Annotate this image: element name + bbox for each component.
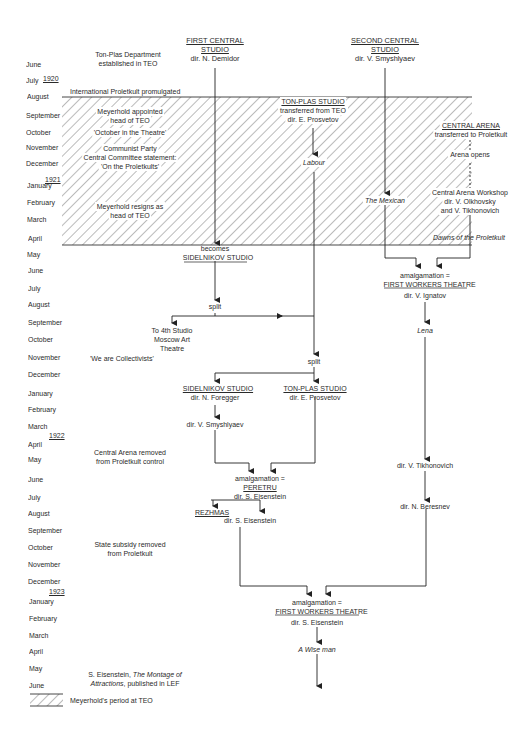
year-1920: 1920: [43, 74, 59, 83]
node-a-wise-man: A Wise man: [294, 645, 340, 654]
month-label: March: [29, 631, 48, 640]
month-label: January: [29, 597, 54, 606]
node-becomes: becomes: [187, 244, 242, 253]
node-dir-smyshlyaev: dir. V. Smyshlyaev: [183, 420, 247, 429]
node-first-workers-theatre-1: amalgamation = FIRST WORKERS THEATRE dir…: [384, 271, 467, 300]
month-label: July: [28, 284, 40, 293]
year-1923: 1923: [49, 587, 65, 596]
node-dawns-of-the-proletkult: Dawns of the Proletkult: [428, 233, 511, 242]
month-label: December: [26, 159, 58, 168]
event-state-subsidy: State subsidy removed from Proletkult: [84, 540, 176, 558]
event-we-are-collectivists: 'We are Collectivists': [90, 354, 154, 363]
month-label: February: [28, 405, 56, 414]
month-label: August: [28, 509, 50, 518]
month-label: October: [28, 543, 53, 552]
event-ton-plas-dept: Ton-Plas Department established in TEO: [82, 50, 174, 68]
year-1922: 1922: [49, 431, 65, 440]
month-label: June: [26, 60, 41, 69]
month-label: August: [28, 300, 50, 309]
node-sidelnikov-studio-1: SIDELNIKOV STUDIO: [183, 253, 247, 262]
month-label: July: [28, 493, 40, 502]
month-label: July: [26, 76, 38, 85]
node-central-arena-workshop: Central Arena Workshop dir. V. Olkhovsky…: [429, 188, 512, 215]
month-label: March: [27, 215, 46, 224]
node-arena-opens: Arena opens: [442, 150, 497, 159]
month-label: January: [27, 181, 52, 190]
month-label: August: [27, 92, 49, 101]
node-ton-plas-studio-1: TON-PLAS STUDIO transferred from TEO dir…: [272, 97, 355, 124]
month-label: February: [27, 198, 55, 207]
node-first-workers-theatre-2: amalgamation = FIRST WORKERS THEATRE dir…: [276, 598, 359, 627]
node-labour: Labour: [296, 158, 333, 167]
diagram-lines: [0, 0, 530, 741]
month-label: October: [26, 128, 51, 137]
month-label: December: [28, 370, 60, 379]
node-first-central-studio: FIRST CENTRAL STUDIO dir. N. Demidor: [178, 36, 252, 63]
legend-label: Meyerhold's period at TEO: [70, 696, 153, 705]
legend-swatch: [30, 694, 63, 706]
node-split-2: split: [300, 357, 328, 366]
month-label: March: [28, 422, 47, 431]
month-label: November: [28, 560, 60, 569]
month-label: June: [28, 475, 43, 484]
proletkult-timeline-diagram: 1920 1921 1922 1923 June July August Sep…: [0, 0, 530, 741]
event-montage-of-attractions: S. Eisenstein, The Montage of Attraction…: [84, 670, 185, 688]
node-4th-studio-moscow-art-theatre: To 4th Studio Moscow Art Theatre: [144, 326, 199, 353]
node-the-mexican: The Mexican: [362, 196, 408, 205]
node-second-central-studio: SECOND CENTRAL STUDIO dir. V. Smyshlyaev: [348, 36, 422, 63]
node-sidelnikov-studio-2: SIDELNIKOV STUDIO dir. N. Foregger: [183, 384, 247, 402]
node-central-arena: CENTRAL ARENA transferred to Proletkult: [429, 121, 514, 139]
node-rezhmas-dir: dir. S. Eisenstein: [218, 516, 282, 525]
month-label: December: [28, 577, 60, 586]
event-intl-proletkult: International Proletkult promulgated: [70, 87, 180, 96]
node-lena: Lena: [411, 326, 439, 335]
month-label: May: [28, 455, 41, 464]
month-label: September: [28, 318, 62, 327]
node-split-1: split: [201, 302, 229, 311]
node-peretru: amalgamation = PERETRU dir. S. Eisenstei…: [228, 474, 292, 501]
month-label: September: [26, 111, 60, 120]
event-communist-party: Communist Party Central Committee statem…: [79, 144, 180, 171]
month-label: November: [28, 353, 60, 362]
event-meyerhold-appointed: Meyerhold appointed head of TEO: [84, 107, 176, 125]
month-label: April: [29, 647, 43, 656]
month-label: May: [29, 664, 42, 673]
month-label: October: [28, 335, 53, 344]
month-label: May: [27, 250, 40, 259]
month-label: April: [28, 440, 42, 449]
node-dir-tikhonovich: dir. V. Tikhonovich: [388, 461, 462, 470]
month-label: January: [28, 389, 53, 398]
month-label: September: [28, 526, 62, 535]
month-label: November: [26, 143, 58, 152]
month-label: June: [29, 681, 44, 690]
month-label: February: [29, 614, 57, 623]
event-central-arena-removed: Central Arena removed from Proletkult co…: [84, 448, 176, 466]
node-dir-beresnev: dir. N. Beresnev: [393, 502, 457, 511]
node-ton-plas-studio-2: TON-PLAS STUDIO dir. E. Prosvetov: [283, 384, 347, 402]
event-october-theatre: 'October in the Theatre': [84, 128, 176, 137]
month-label: June: [28, 266, 43, 275]
month-label: April: [28, 234, 42, 243]
event-meyerhold-resigns: Meyerhold resigns as head of TEO: [84, 202, 176, 220]
